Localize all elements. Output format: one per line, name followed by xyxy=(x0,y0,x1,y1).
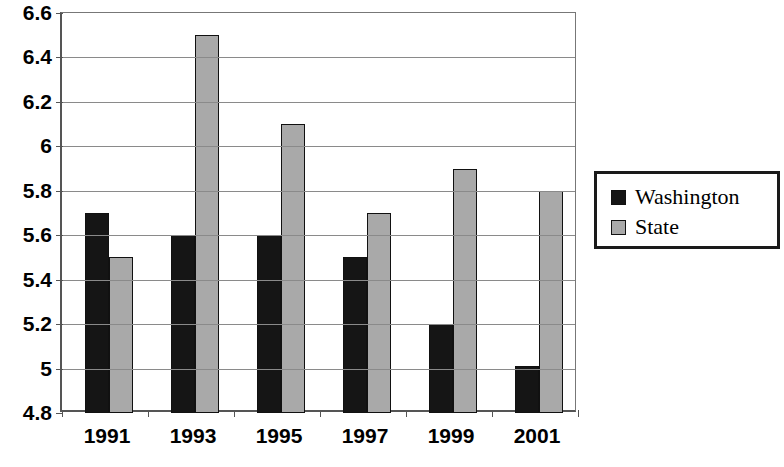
legend-item-washington: Washington xyxy=(611,182,777,212)
gridline xyxy=(62,146,575,147)
y-axis-tick-label: 4.8 xyxy=(0,402,52,423)
y-axis-tick-label: 5.6 xyxy=(0,224,52,245)
legend-label-washington: Washington xyxy=(635,186,740,208)
x-axis-tick xyxy=(148,410,149,417)
bar-state-2001 xyxy=(539,191,563,413)
x-axis-tick xyxy=(492,410,493,417)
gridline xyxy=(62,324,575,325)
gridline xyxy=(62,369,575,370)
y-axis-tick xyxy=(56,146,63,147)
bar-state-1995 xyxy=(281,124,305,413)
bar-washington-1991 xyxy=(85,213,109,413)
bar-state-1997 xyxy=(367,213,391,413)
bar-chart: 4.855.25.45.65.866.26.46.6 1991199319951… xyxy=(0,0,784,467)
x-axis-tick xyxy=(234,410,235,417)
x-axis-tick-label: 1997 xyxy=(342,424,389,448)
gridline xyxy=(62,235,575,236)
y-axis-tick xyxy=(56,369,63,370)
gridline xyxy=(62,102,575,103)
y-axis-tick-label: 6.6 xyxy=(0,2,52,23)
x-axis-tick-label: 1995 xyxy=(256,424,303,448)
bar-washington-2001 xyxy=(515,366,539,413)
x-axis-tick-label: 1991 xyxy=(84,424,131,448)
x-axis-tick xyxy=(320,410,321,417)
x-axis-tick-label: 1999 xyxy=(428,424,475,448)
bar-state-1991 xyxy=(109,257,133,413)
x-axis-tick-labels: 199119931995199719992001 xyxy=(60,424,576,464)
y-axis-tick xyxy=(56,13,63,14)
y-axis-tick-label: 6.4 xyxy=(0,46,52,67)
x-axis-tick-label: 1993 xyxy=(170,424,217,448)
x-axis-tick xyxy=(62,410,63,417)
bar-state-1999 xyxy=(453,169,477,413)
legend-swatch-washington xyxy=(611,190,626,205)
legend-swatch-state xyxy=(611,220,626,235)
y-axis-tick-label: 5.2 xyxy=(0,313,52,334)
gridline xyxy=(62,191,575,192)
gridline xyxy=(62,280,575,281)
plot-area xyxy=(60,12,576,412)
y-axis-tick xyxy=(56,102,63,103)
y-axis-tick xyxy=(56,324,63,325)
bar-state-1993 xyxy=(195,35,219,413)
x-axis-tick xyxy=(578,410,579,417)
y-axis-tick-label: 6.2 xyxy=(0,90,52,111)
y-axis-tick xyxy=(56,280,63,281)
bars-layer xyxy=(62,13,575,410)
y-axis-tick-label: 6 xyxy=(0,135,52,156)
y-axis-tick-labels: 4.855.25.45.65.866.26.46.6 xyxy=(0,0,52,467)
y-axis-tick xyxy=(56,191,63,192)
x-axis-tick xyxy=(406,410,407,417)
legend-item-state: State xyxy=(611,212,777,242)
gridline xyxy=(62,57,575,58)
y-axis-tick xyxy=(56,57,63,58)
y-axis-tick xyxy=(56,235,63,236)
y-axis-tick-label: 5.8 xyxy=(0,179,52,200)
chart-legend: Washington State xyxy=(594,171,780,249)
x-axis-tick-label: 2001 xyxy=(514,424,561,448)
y-axis-tick-label: 5.4 xyxy=(0,268,52,289)
legend-label-state: State xyxy=(635,216,679,238)
y-axis-tick-label: 5 xyxy=(0,357,52,378)
bar-washington-1997 xyxy=(343,257,367,413)
